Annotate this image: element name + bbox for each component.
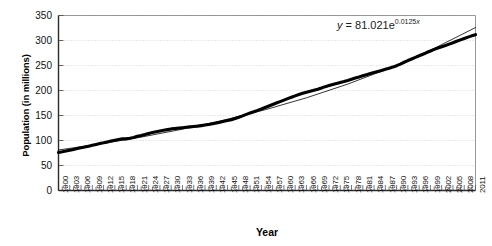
- x-axis-tick-label: 2008: [467, 176, 475, 193]
- x-axis-tick-label: 1993: [411, 176, 419, 193]
- x-axis-tick-labels: 1900190319061909191219151918192119241927…: [0, 0, 492, 246]
- x-axis-tick-label: 1945: [231, 176, 239, 193]
- equation-exponent: 0.0125x: [395, 18, 420, 25]
- population-chart: Population (in millions) 050100150200250…: [0, 0, 492, 246]
- x-axis-tick-label: 1999: [434, 176, 442, 193]
- x-axis-tick-label: 1933: [186, 176, 194, 193]
- x-axis-tick-label: 1954: [265, 176, 273, 193]
- x-axis-tick-label: 1987: [389, 176, 397, 193]
- x-axis-tick-label: 1981: [366, 176, 374, 193]
- x-axis-tick-label: 1957: [276, 176, 284, 193]
- x-axis-tick-label: 1921: [141, 176, 149, 193]
- x-axis-tick-label: 1975: [343, 176, 351, 193]
- x-axis-tick-label: 1996: [422, 176, 430, 193]
- trendline-equation-annotation: y = 81.021e0.0125x: [337, 19, 420, 31]
- x-axis-tick-label: 1900: [62, 176, 70, 193]
- x-axis-tick-label: 1984: [377, 176, 385, 193]
- x-axis-tick-label: 1951: [253, 176, 261, 193]
- x-axis-tick-label: 1912: [107, 176, 115, 193]
- x-axis-tick-label: 1936: [197, 176, 205, 193]
- x-axis-tick-label: 1963: [298, 176, 306, 193]
- x-axis-tick-label: 1924: [152, 176, 160, 193]
- x-axis-tick-label: 1939: [208, 176, 216, 193]
- x-axis-tick-label: 1942: [219, 176, 227, 193]
- x-axis-tick-label: 1966: [310, 176, 318, 193]
- x-axis-tick-label: 1906: [84, 176, 92, 193]
- x-axis-tick-label: 2002: [445, 176, 453, 193]
- x-axis-tick-label: 2005: [456, 176, 464, 193]
- x-axis-tick-label: 1978: [355, 176, 363, 193]
- x-axis-tick-label: 1903: [73, 176, 81, 193]
- x-axis-tick-label: 1927: [163, 176, 171, 193]
- x-axis-tick-label: 1969: [321, 176, 329, 193]
- x-axis-tick-label: 1918: [129, 176, 137, 193]
- x-axis-tick-label: 1948: [242, 176, 250, 193]
- x-axis-tick-label: 1930: [174, 176, 182, 193]
- equation-body: = 81.021e: [343, 19, 395, 31]
- x-axis-tick-label: 2011: [479, 177, 487, 193]
- x-axis-tick-label: 1972: [332, 176, 340, 193]
- x-axis-title: Year: [58, 226, 476, 238]
- x-axis-tick-label: 1909: [96, 176, 104, 193]
- x-axis-tick-label: 1915: [118, 176, 126, 193]
- x-axis-tick-label: 1990: [400, 176, 408, 193]
- x-axis-tick-label: 1960: [287, 176, 295, 193]
